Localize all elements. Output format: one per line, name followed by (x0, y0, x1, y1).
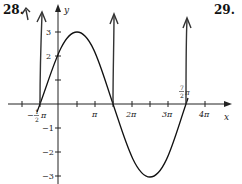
svg-text:π: π (40, 111, 47, 120)
x-axis-label: x (224, 112, 229, 122)
svg-text:−: − (27, 111, 34, 120)
hand-arrow-small-icon (22, 8, 30, 20)
hand-arrow-left-icon (40, 14, 42, 104)
y-tick-label-2: 2 (46, 52, 51, 61)
x-tick-label-pi: π (91, 110, 98, 119)
svg-text:2: 2 (180, 92, 184, 99)
x-tick-label-2pi: 2π (125, 110, 137, 119)
y-tick-label-neg1: −1 (42, 124, 54, 133)
svg-text:π: π (184, 89, 190, 97)
x-tick-label-4pi: 4π (198, 110, 210, 119)
hand-arrow-mid-icon (113, 16, 114, 104)
svg-text:7: 7 (180, 84, 184, 91)
x-axis-arrow-icon (224, 101, 232, 107)
x-annotation-seven-halves-pi: 7 2 π (179, 84, 190, 99)
svg-text:2: 2 (35, 116, 39, 123)
y-tick-label-3: 3 (46, 28, 51, 37)
y-axis-arrow-icon (55, 4, 61, 12)
y-tick-label-neg3: −3 (42, 172, 54, 181)
y-axis-label: y (63, 5, 70, 15)
sine-graph: y x 3 2 −1 −2 −3 − 1 2 π π 2π 3π 4π 7 2 … (0, 0, 242, 184)
y-tick-label-neg2: −2 (42, 148, 54, 157)
x-tick-label-3pi: 3π (162, 110, 173, 119)
